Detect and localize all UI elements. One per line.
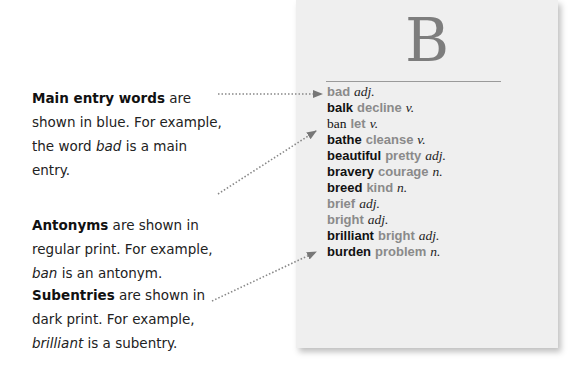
pointer-arrows (0, 0, 587, 366)
arrow-subentries (212, 252, 316, 301)
arrow-antonyms (218, 131, 316, 194)
